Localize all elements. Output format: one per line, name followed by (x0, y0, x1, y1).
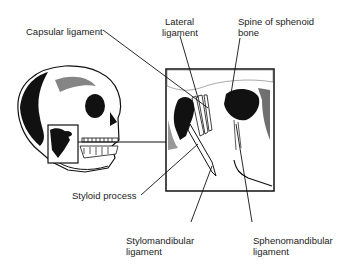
joint-detail-box (166, 69, 274, 191)
label-spine-of-sphenoid-line1: Spine of sphenoid (238, 16, 314, 27)
label-lateral-ligament-line2: ligament (162, 27, 198, 38)
label-capsular-ligament: Capsular ligament (26, 26, 103, 37)
skull-inset-box (48, 125, 78, 163)
label-stylomandibular-line1: Stylomandibular (126, 235, 194, 246)
diagram-canvas (0, 0, 349, 267)
label-lateral-ligament-line1: Lateral (165, 16, 194, 27)
label-styloid-process: Styloid process (72, 190, 136, 201)
label-spine-of-sphenoid-line2: bone (238, 27, 259, 38)
label-sphenomandibular-line1: Sphenomandibular (253, 235, 333, 246)
label-sphenomandibular-line2: ligament (253, 246, 289, 257)
label-stylomandibular-line2: ligament (126, 246, 162, 257)
